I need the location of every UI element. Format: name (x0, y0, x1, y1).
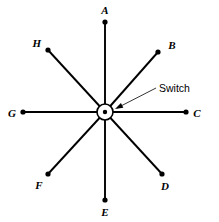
node-label-B: B (168, 40, 176, 51)
spoke-line-F (48, 112, 105, 174)
switch-callout-label: Switch (159, 83, 190, 94)
terminal-dot-B (155, 49, 160, 54)
node-label-C: C (193, 108, 201, 119)
spoke-line-H (48, 50, 105, 112)
callout-arrowhead-icon (115, 103, 123, 109)
terminal-dot-E (102, 197, 107, 202)
spoke-diagram-svg (0, 0, 219, 222)
node-label-F: F (35, 180, 43, 191)
node-label-G: G (8, 108, 16, 119)
node-label-D: D (161, 181, 169, 192)
switch-symbol (97, 104, 113, 120)
spoke-line-B (105, 52, 158, 112)
node-label-A: A (101, 5, 109, 16)
terminal-dot-D (159, 171, 164, 176)
terminal-dot-H (45, 47, 50, 52)
spoke-line-D (105, 112, 162, 174)
terminal-dot-F (45, 171, 50, 176)
terminal-dot-G (20, 109, 25, 114)
figure-canvas: A B C D E F G H Switch (0, 0, 219, 222)
terminal-dot-C (183, 109, 188, 114)
node-label-H: H (33, 38, 42, 49)
switch-center-dot (103, 110, 107, 114)
terminal-dot-A (102, 19, 107, 24)
switch-callout-leader (115, 88, 156, 109)
node-label-E: E (101, 207, 109, 218)
